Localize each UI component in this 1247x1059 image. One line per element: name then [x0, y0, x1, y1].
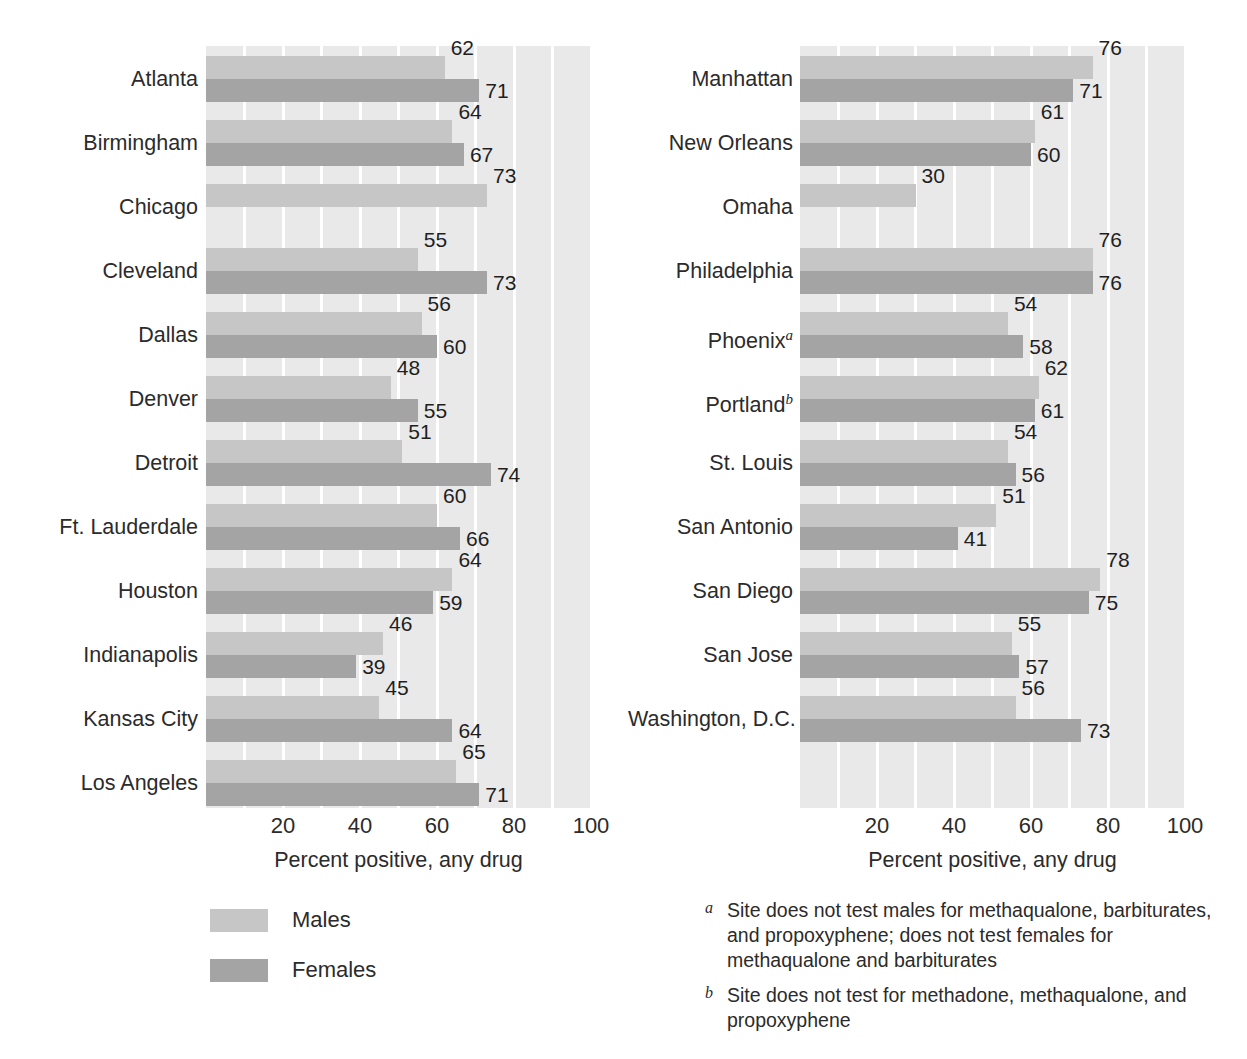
bar-females — [206, 79, 479, 102]
bar-value-label: 65 — [462, 740, 485, 763]
bar-males — [800, 696, 1016, 719]
bar-males — [800, 56, 1093, 79]
category-label: New Orleans — [628, 131, 793, 155]
bar-males — [800, 440, 1008, 463]
bar-females — [206, 655, 356, 678]
bar-females — [800, 399, 1035, 422]
bar-rows-left: 6271646773557356604855517460666459463945… — [206, 46, 591, 808]
category-label: Atlanta — [8, 67, 198, 91]
bar-value-label: 51 — [408, 420, 431, 443]
footnote-text: Site does not test males for methaqualon… — [727, 899, 1212, 971]
bar-males — [206, 184, 487, 207]
legend-label-females: Females — [292, 955, 376, 985]
bar-group: 7671 — [800, 56, 1185, 102]
bar-females — [800, 591, 1089, 614]
bar-value-label: 76 — [1099, 36, 1122, 59]
bar-value-label: 46 — [389, 612, 412, 635]
category-label: Ft. Lauderdale — [8, 515, 198, 539]
footnote-marker: a — [705, 899, 713, 917]
bar-value-label: 41 — [964, 527, 987, 550]
bar-group: 5456 — [800, 440, 1185, 486]
bar-females — [800, 143, 1031, 166]
bar-males — [206, 696, 379, 719]
category-label: Chicago — [8, 195, 198, 219]
category-label: Philadelphia — [628, 259, 793, 283]
bar-value-label: 67 — [470, 143, 493, 166]
bar-group: 6261 — [800, 376, 1185, 422]
bar-value-label: 39 — [362, 655, 385, 678]
bar-females — [206, 271, 487, 294]
bar-males — [206, 632, 383, 655]
bar-value-label: 55 — [424, 399, 447, 422]
category-label: Cleveland — [8, 259, 198, 283]
bar-value-label: 30 — [922, 164, 945, 187]
bar-value-label: 55 — [1018, 612, 1041, 635]
bar-males — [206, 568, 452, 591]
x-axis-title-right: Percent positive, any drug — [800, 848, 1185, 873]
bar-females — [206, 463, 491, 486]
bar-value-label: 45 — [385, 676, 408, 699]
bar-value-label: 61 — [1041, 399, 1064, 422]
footnote-item: bSite does not test for methadone, metha… — [705, 983, 1225, 1033]
bar-males — [800, 632, 1012, 655]
footnote-marker: b — [705, 984, 713, 1002]
bar-group: 6271 — [206, 56, 591, 102]
bar-males — [206, 248, 418, 271]
bar-group: 7875 — [800, 568, 1185, 614]
category-label: Phoenixa — [628, 323, 793, 353]
bar-males — [800, 248, 1093, 271]
bar-females — [800, 719, 1081, 742]
category-label: Dallas — [8, 323, 198, 347]
bar-males — [206, 760, 456, 783]
category-label: San Diego — [628, 579, 793, 603]
footnote-marker-b: b — [786, 391, 794, 407]
category-label: San Antonio — [628, 515, 793, 539]
bar-females — [800, 527, 958, 550]
x-tick-label: 60 — [1019, 812, 1043, 840]
x-tick-label: 100 — [573, 812, 610, 840]
bar-group: 73 — [206, 184, 591, 230]
bar-value-label: 60 — [1037, 143, 1060, 166]
footnotes: aSite does not test males for methaqualo… — [705, 898, 1225, 1043]
bar-males — [206, 56, 445, 79]
bar-value-label: 60 — [443, 484, 466, 507]
plot-area-left: 6271646773557356604855517460666459463945… — [206, 46, 591, 808]
bar-value-label: 56 — [428, 292, 451, 315]
x-tick-label: 80 — [1096, 812, 1120, 840]
category-label: Los Angeles — [8, 771, 198, 795]
bar-group: 5557 — [800, 632, 1185, 678]
bar-males — [206, 120, 452, 143]
bar-value-label: 58 — [1029, 335, 1052, 358]
bar-value-label: 57 — [1025, 655, 1048, 678]
bar-males — [800, 376, 1039, 399]
category-label: Manhattan — [628, 67, 793, 91]
legend-label-males: Males — [292, 905, 351, 935]
bar-value-label: 73 — [493, 164, 516, 187]
bar-group: 7676 — [800, 248, 1185, 294]
bar-group: 5174 — [206, 440, 591, 486]
x-axis-title-left: Percent positive, any drug — [206, 848, 591, 873]
x-axis-right: 20406080100 — [800, 812, 1185, 842]
bar-group: 5141 — [800, 504, 1185, 550]
category-label: Portlandb — [628, 387, 793, 417]
bar-rows-right: 7671616030767654586261545651417875555756… — [800, 46, 1185, 808]
bar-group: 6160 — [800, 120, 1185, 166]
x-tick-label: 20 — [865, 812, 889, 840]
bar-value-label: 62 — [1045, 356, 1068, 379]
bar-females — [800, 463, 1016, 486]
bar-value-label: 56 — [1022, 463, 1045, 486]
x-tick-label: 40 — [348, 812, 372, 840]
bar-value-label: 73 — [493, 271, 516, 294]
bar-females — [800, 335, 1023, 358]
bar-value-label: 71 — [1079, 79, 1102, 102]
bar-value-label: 66 — [466, 527, 489, 550]
legend-swatch-females-icon — [210, 959, 268, 982]
category-label: Birmingham — [8, 131, 198, 155]
bar-value-label: 74 — [497, 463, 520, 486]
bar-group: 5573 — [206, 248, 591, 294]
category-label: San Jose — [628, 643, 793, 667]
bar-females — [800, 271, 1093, 294]
bar-males — [800, 312, 1008, 335]
bar-males — [800, 120, 1035, 143]
x-tick-label: 20 — [271, 812, 295, 840]
